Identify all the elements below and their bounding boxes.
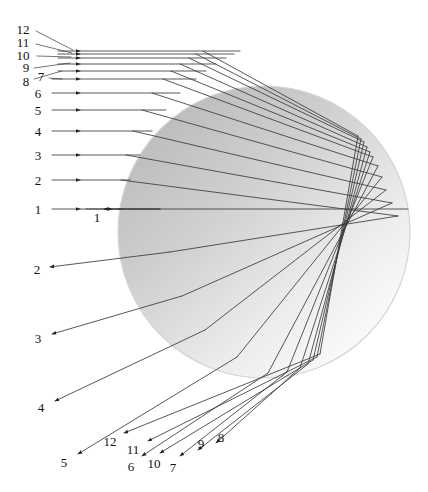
exit-label-11: 11 (127, 443, 140, 456)
exit-label-8: 8 (218, 431, 225, 444)
exit-ray-5 (78, 357, 237, 454)
incident-label-6: 6 (35, 87, 42, 100)
leader-7 (49, 78, 62, 79)
exit-ray-6 (142, 373, 268, 456)
exit-label-5: 5 (61, 456, 68, 469)
incident-label-11: 11 (17, 36, 30, 49)
incident-label-3: 3 (35, 149, 42, 162)
exit-label-10: 10 (148, 457, 161, 470)
incident-label-1: 1 (35, 203, 42, 216)
exit-label-4: 4 (38, 401, 45, 414)
exit-label-7: 7 (170, 461, 177, 474)
exit-label-2: 2 (34, 263, 41, 276)
leader-11 (36, 44, 72, 53)
exit-label-12: 12 (104, 435, 117, 448)
incident-label-8: 8 (23, 75, 30, 88)
exit-ray-7 (180, 372, 287, 456)
incident-label-7: 7 (38, 70, 45, 83)
exit-label-1: 1 (94, 211, 101, 224)
incident-label-2: 2 (35, 174, 42, 187)
incident-label-5: 5 (35, 104, 42, 117)
exit-label-3: 3 (35, 332, 42, 345)
leader-12 (36, 31, 73, 50)
droplet-sphere (118, 86, 410, 378)
incident-label-10: 10 (17, 49, 30, 62)
leader-9 (34, 63, 70, 68)
exit-label-9: 9 (198, 437, 205, 450)
incident-label-12: 12 (17, 23, 30, 36)
ray-diagram-canvas (0, 0, 428, 492)
exit-label-6: 6 (128, 460, 135, 473)
leader-10 (37, 56, 71, 57)
incident-label-4: 4 (35, 125, 42, 138)
